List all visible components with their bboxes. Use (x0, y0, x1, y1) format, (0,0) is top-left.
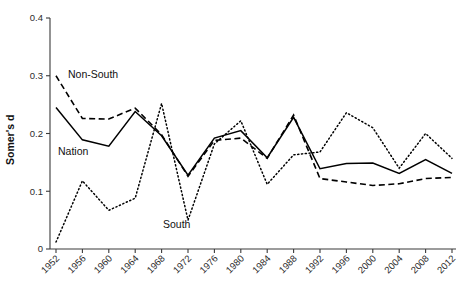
x-tick-label: 1968 (144, 253, 167, 276)
x-tick-label: 1984 (250, 253, 273, 276)
y-tick-label: 0.4 (30, 12, 43, 23)
series-annotation-south: South (163, 218, 191, 230)
series-line-nation (56, 108, 452, 176)
y-tick-label: 0.2 (30, 128, 43, 139)
y-tick-label: 0.1 (30, 186, 43, 197)
x-tick-label: 1964 (118, 253, 141, 276)
x-tick-label: 2008 (408, 253, 431, 276)
x-tick-label: 1996 (329, 253, 352, 276)
x-tick-label: 1976 (197, 253, 220, 276)
x-tick-label: 1980 (223, 253, 246, 276)
y-tick-group: 00.10.20.30.4 (30, 12, 50, 254)
x-tick-label: 1956 (65, 253, 88, 276)
x-tick-label: 2004 (382, 253, 405, 276)
y-tick-label: 0.3 (30, 70, 43, 81)
series-annotation-nation: Nation (58, 145, 89, 157)
series-annotation-non-south: Non-South (68, 68, 118, 80)
x-tick-group: 1952195619601964196819721976198019841988… (39, 249, 458, 275)
x-tick-label: 1972 (171, 253, 194, 276)
series-line-non-south (56, 76, 452, 186)
y-axis-title: Somer's d (4, 115, 16, 165)
x-tick-label: 1960 (91, 253, 114, 276)
y-axis: 00.10.20.30.4 (30, 12, 50, 254)
x-tick-label: 1988 (276, 253, 299, 276)
chart-container: 00.10.20.30.4 19521956196019641968197219… (0, 0, 464, 291)
x-tick-label: 2012 (435, 253, 458, 276)
somers-d-line-chart: 00.10.20.30.4 19521956196019641968197219… (0, 0, 464, 291)
x-tick-label: 1952 (39, 253, 62, 276)
x-tick-label: 1992 (303, 253, 326, 276)
series-line-south (56, 103, 452, 242)
x-tick-label: 2000 (355, 253, 378, 276)
x-axis: 1952195619601964196819721976198019841988… (39, 249, 458, 275)
y-tick-label: 0 (38, 243, 43, 254)
series-group (56, 76, 452, 242)
